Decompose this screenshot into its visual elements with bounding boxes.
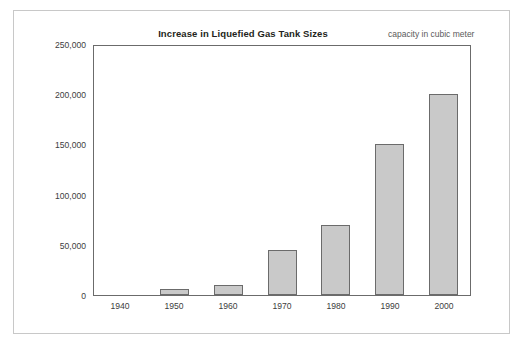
x-tick-label: 2000: [417, 301, 471, 311]
x-tick-label: 1960: [201, 301, 255, 311]
bar-slot: [363, 46, 417, 295]
bar-series: [94, 46, 470, 295]
chart-figure: Increase in Liquefied Gas Tank Sizes cap…: [0, 0, 521, 348]
y-tick-label: 150,000: [0, 140, 86, 150]
bar-1970[interactable]: [268, 250, 297, 295]
y-tick-label: 100,000: [0, 191, 86, 201]
bar-slot: [309, 46, 363, 295]
bar-slot: [94, 46, 148, 295]
bar-slot: [201, 46, 255, 295]
bar-slot: [148, 46, 202, 295]
bar-1980[interactable]: [321, 225, 350, 295]
bar-2000[interactable]: [429, 94, 458, 295]
y-tick-label: 200,000: [0, 90, 86, 100]
y-tick-label: 0: [0, 291, 86, 301]
y-tick-label: 50,000: [0, 241, 86, 251]
x-tick-label: 1940: [93, 301, 147, 311]
bar-1960[interactable]: [214, 285, 243, 295]
x-tick-label: 1970: [255, 301, 309, 311]
x-tick-label: 1990: [363, 301, 417, 311]
y-tick-label: 250,000: [0, 40, 86, 50]
x-axis: 1940195019601970198019902000: [93, 301, 471, 311]
bar-1990[interactable]: [375, 144, 404, 295]
bar-slot: [416, 46, 470, 295]
x-tick-label: 1980: [309, 301, 363, 311]
y-axis: 050,000100,000150,000200,000250,000: [0, 45, 86, 296]
bar-1950[interactable]: [160, 289, 189, 295]
x-tick-label: 1950: [147, 301, 201, 311]
plot-area: [93, 45, 471, 296]
chart-subtitle: capacity in cubic meter: [388, 29, 474, 39]
bar-slot: [255, 46, 309, 295]
chart-title: Increase in Liquefied Gas Tank Sizes: [93, 28, 393, 39]
